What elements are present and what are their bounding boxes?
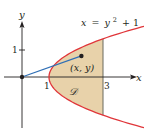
curve-equation-label: x = y 2 + 1 <box>81 13 139 28</box>
eq-y: y <box>103 17 110 28</box>
x-tick-label-3: 3 <box>104 81 110 91</box>
x-tick-label-1: 1 <box>44 81 50 91</box>
parabola-region-figure: y x 1 1 3 x = y 2 + 1 (x, y) 𝒟 <box>0 0 144 134</box>
x-axis-label: x <box>136 72 142 83</box>
eq-rest: + 1 <box>122 17 139 28</box>
origin-dot <box>20 75 24 79</box>
point-dot <box>79 54 83 58</box>
y-tick-label-1: 1 <box>12 45 18 55</box>
point-label: (x, y) <box>70 62 94 73</box>
figure-canvas: y x 1 1 3 x = y 2 + 1 (x, y) 𝒟 <box>0 0 144 134</box>
eq-equals: = <box>91 17 99 28</box>
eq-lhs: x <box>81 17 87 28</box>
eq-exponent: 2 <box>113 16 117 24</box>
y-axis-label: y <box>18 9 25 20</box>
